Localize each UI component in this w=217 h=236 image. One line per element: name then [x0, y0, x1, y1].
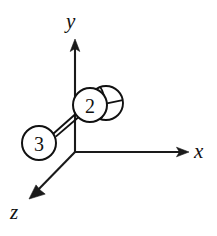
z-axis-label: z: [9, 200, 18, 224]
y-axis-label: y: [64, 9, 76, 33]
coordinate-axes-diagram: y x z 2 3: [0, 0, 217, 236]
z-axis-arrowhead: [29, 185, 45, 199]
atom-3-label: 3: [34, 133, 44, 155]
x-axis: [75, 147, 189, 157]
x-axis-label: x: [193, 139, 204, 163]
atom-2: 2: [73, 88, 107, 122]
atom-3: 3: [22, 126, 56, 160]
atom-2-label: 2: [85, 95, 95, 117]
figure-root: y x z 2 3: [0, 0, 217, 236]
